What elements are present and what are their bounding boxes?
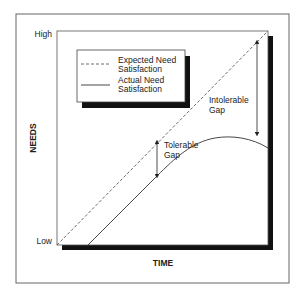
y-axis-title: NEEDS bbox=[28, 123, 38, 153]
y-axis-high-label: High bbox=[35, 29, 53, 39]
legend-actual-line2: Satisfaction bbox=[118, 84, 162, 94]
tolerable-gap-label-line1: Tolerable bbox=[164, 140, 199, 150]
plot-shadow-bottom bbox=[62, 245, 273, 250]
plot-shadow-right bbox=[268, 36, 273, 250]
tolerable-gap-label-line2: Gap bbox=[164, 150, 180, 160]
intolerable-gap-label-line2: Gap bbox=[209, 105, 225, 115]
y-axis-low-label: Low bbox=[36, 236, 52, 246]
needs-gap-diagram: Expected Need Satisfaction Actual Need S… bbox=[0, 0, 304, 296]
intolerable-gap-label-line1: Intolerable bbox=[209, 95, 249, 105]
legend-expected-line2: Satisfaction bbox=[118, 64, 162, 74]
legend: Expected Need Satisfaction Actual Need S… bbox=[77, 50, 190, 108]
x-axis-title: TIME bbox=[153, 258, 174, 268]
